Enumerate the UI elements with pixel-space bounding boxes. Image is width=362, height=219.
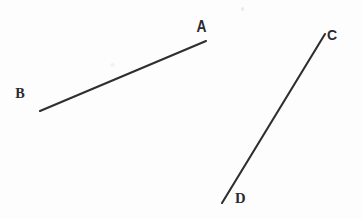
segment-CD xyxy=(222,34,325,203)
point-label-d: D xyxy=(235,191,246,206)
geometry-figure-canvas: A B C D xyxy=(0,0,362,219)
point-label-c: C xyxy=(327,28,337,42)
paper-speck-artifact xyxy=(241,7,244,11)
point-label-a: A xyxy=(196,19,206,35)
point-label-b: B xyxy=(15,86,25,101)
paper-smudge-artifact xyxy=(110,63,115,67)
line-segments-layer xyxy=(0,0,362,219)
segment-AB xyxy=(40,41,206,111)
